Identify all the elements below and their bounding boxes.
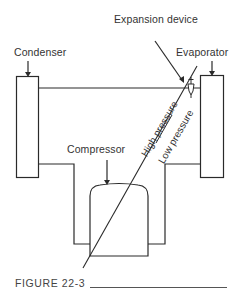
compressor-body (90, 184, 148, 257)
caption-rule (90, 287, 227, 288)
suction-line (148, 164, 201, 244)
evaporator-box (201, 76, 224, 178)
condenser-label: Condenser (14, 46, 66, 58)
expansion-device-label: Expansion device (114, 13, 198, 25)
figure-caption: FIGURE 22-3 (15, 277, 85, 289)
condenser-box (17, 77, 39, 178)
discharge-line (39, 164, 91, 244)
evaporator-label: Evaporator (176, 46, 228, 58)
compressor-label: Compressor (67, 143, 125, 155)
pressure-divider-line (83, 66, 197, 268)
